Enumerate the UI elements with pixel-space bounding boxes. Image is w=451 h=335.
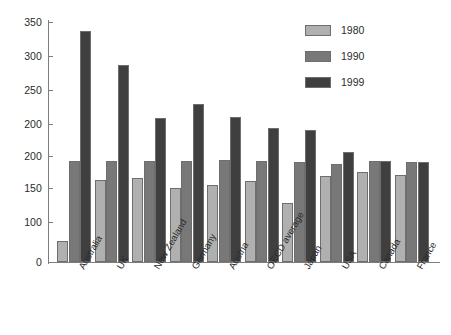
bar [193, 104, 204, 262]
bar [106, 161, 117, 262]
bar [343, 152, 354, 262]
bar [305, 130, 316, 262]
y-tick-label: 0 [12, 257, 42, 268]
legend-label-1980: 1980 [341, 25, 364, 36]
bar [132, 178, 143, 262]
bar [118, 65, 129, 262]
legend-item-1990: 1990 [305, 46, 364, 66]
bar [219, 160, 230, 262]
plot-area [49, 22, 439, 262]
y-tick-label: 250 [12, 85, 42, 96]
legend-label-1999: 1999 [341, 77, 364, 88]
y-tick-label: 350 [12, 17, 42, 28]
bar [369, 161, 380, 262]
legend-label-1990: 1990 [341, 51, 364, 62]
bar [331, 164, 342, 262]
bar-group [132, 22, 167, 262]
bar-group [207, 22, 242, 262]
y-tick-label: 200 [12, 151, 42, 162]
legend-swatch-1999 [305, 77, 331, 88]
bar [80, 31, 91, 262]
bar [57, 241, 68, 262]
legend-swatch-1980 [305, 25, 331, 36]
bar [406, 162, 417, 262]
bar-group [245, 22, 280, 262]
y-tick-mark [48, 262, 53, 263]
y-tick-label: 100 [12, 217, 42, 228]
legend-item-1980: 1980 [305, 20, 364, 40]
bar [181, 161, 192, 262]
y-tick-label: 300 [12, 51, 42, 62]
bar [69, 161, 80, 262]
legend-item-1999: 1999 [305, 72, 364, 92]
bar [256, 161, 267, 262]
bar-group [57, 22, 92, 262]
bar [357, 172, 368, 262]
bar-group [95, 22, 130, 262]
y-tick-label: 200 [12, 119, 42, 130]
bar-chart: 3503002502002001501000 AustraliaUKNew Ze… [0, 0, 451, 335]
chart-legend: 1980 1990 1999 [305, 20, 364, 98]
bar-group [395, 22, 430, 262]
legend-swatch-1990 [305, 51, 331, 62]
y-tick-label: 150 [12, 183, 42, 194]
bar [144, 161, 155, 262]
